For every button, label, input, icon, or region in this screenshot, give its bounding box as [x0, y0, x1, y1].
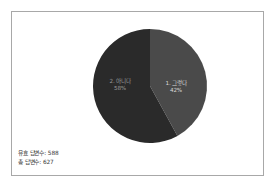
total-response-count: 총 답변수: 627 — [18, 158, 59, 168]
chart-page: 1. 그렇다 42% 2. 아니다 58% 유효 답변수: 588 총 답변수:… — [0, 0, 276, 188]
valid-response-count: 유효 답변수: 588 — [18, 149, 59, 159]
response-count-summary: 유효 답변수: 588 총 답변수: 627 — [18, 149, 59, 168]
pie-chart-svg — [82, 18, 218, 154]
chart-frame: 1. 그렇다 42% 2. 아니다 58% 유효 답변수: 588 총 답변수:… — [11, 11, 264, 176]
pie-chart: 1. 그렇다 42% 2. 아니다 58% — [82, 18, 218, 154]
